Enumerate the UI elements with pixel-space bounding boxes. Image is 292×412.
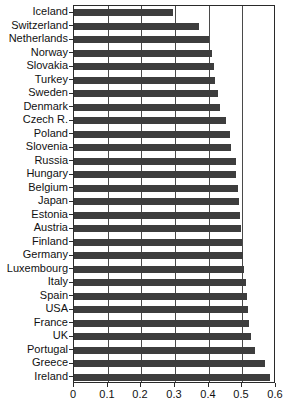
x-tick-mark (208, 383, 209, 387)
x-tick-mark (174, 383, 175, 387)
y-axis-label: Netherlands (0, 32, 68, 45)
y-axis-label: Sweden (0, 86, 68, 99)
y-tick-mark (69, 120, 73, 121)
bar-finland (74, 239, 242, 246)
bar-hungary (74, 171, 236, 178)
x-axis-label: 0.3 (157, 388, 191, 400)
bar-norway (74, 50, 212, 57)
bar-switzerland (74, 23, 199, 30)
y-tick-mark (69, 25, 73, 26)
y-axis-label: Denmark (0, 100, 68, 113)
y-tick-mark (69, 376, 73, 377)
y-axis-label: Spain (0, 289, 68, 302)
bar-iceland (74, 9, 173, 16)
bar-turkey (74, 77, 215, 84)
bar-portugal (74, 347, 255, 354)
y-axis-label: Slovakia (0, 59, 68, 72)
y-tick-mark (69, 133, 73, 134)
y-tick-mark (69, 349, 73, 350)
x-tick-mark (107, 383, 108, 387)
x-axis-label: 0.2 (123, 388, 157, 400)
y-tick-mark (69, 174, 73, 175)
x-axis-label: 0.5 (224, 388, 258, 400)
y-tick-mark (69, 336, 73, 337)
y-tick-mark (69, 160, 73, 161)
bar-italy (74, 279, 246, 286)
y-axis-label: Luxembourg (0, 262, 68, 275)
y-axis-label: Portugal (0, 343, 68, 356)
y-axis-label: Italy (0, 275, 68, 288)
y-axis-label: Iceland (0, 5, 68, 18)
bar-luxembourg (74, 266, 244, 273)
y-axis-label: Poland (0, 127, 68, 140)
y-axis-label: Estonia (0, 208, 68, 221)
y-axis-label: Finland (0, 235, 68, 248)
y-axis-label: Belgium (0, 181, 68, 194)
y-axis-label: Greece (0, 356, 68, 369)
x-axis-label: 0.4 (191, 388, 225, 400)
y-tick-mark (69, 201, 73, 202)
bar-germany (74, 252, 243, 259)
x-axis-label: 0.1 (90, 388, 124, 400)
x-tick-mark (73, 383, 74, 387)
y-tick-mark (69, 52, 73, 53)
bar-uk (74, 333, 251, 340)
y-axis-label: Germany (0, 248, 68, 261)
y-axis-label: Ireland (0, 370, 68, 383)
y-tick-mark (69, 268, 73, 269)
y-tick-mark (69, 79, 73, 80)
bar-ireland (74, 374, 270, 381)
x-tick-mark (241, 383, 242, 387)
x-tick-mark (140, 383, 141, 387)
x-axis-label: 0.6 (258, 388, 292, 400)
y-axis-label: Switzerland (0, 19, 68, 32)
bar-slovakia (74, 63, 214, 70)
y-axis-label: Turkey (0, 73, 68, 86)
y-tick-mark (69, 241, 73, 242)
y-tick-mark (69, 228, 73, 229)
x-tick-mark (275, 383, 276, 387)
y-tick-mark (69, 12, 73, 13)
bar-greece (74, 360, 265, 367)
y-axis-label: Russia (0, 154, 68, 167)
y-tick-mark (69, 282, 73, 283)
y-tick-mark (69, 147, 73, 148)
y-axis-label: Norway (0, 46, 68, 59)
y-axis-label: Czech R. (0, 113, 68, 126)
bar-belgium (74, 185, 238, 192)
horizontal-bar-chart: IcelandSwitzerlandNetherlandsNorwaySlova… (0, 0, 292, 412)
bar-austria (74, 225, 241, 232)
y-axis-label: UK (0, 329, 68, 342)
y-tick-mark (69, 39, 73, 40)
bar-czech-r (74, 117, 226, 124)
y-axis-label: Japan (0, 194, 68, 207)
y-tick-mark (69, 309, 73, 310)
bar-netherlands (74, 36, 209, 43)
y-axis-label: Hungary (0, 167, 68, 180)
bar-estonia (74, 212, 240, 219)
bar-france (74, 320, 249, 327)
y-tick-mark (69, 93, 73, 94)
y-axis-label: Slovenia (0, 140, 68, 153)
bar-japan (74, 198, 239, 205)
bar-poland (74, 131, 230, 138)
y-axis-label: USA (0, 302, 68, 315)
y-tick-mark (69, 322, 73, 323)
bar-slovenia (74, 144, 231, 151)
y-axis-label: Austria (0, 221, 68, 234)
bar-denmark (74, 104, 220, 111)
bar-sweden (74, 90, 218, 97)
y-tick-mark (69, 295, 73, 296)
bar-usa (74, 306, 248, 313)
y-tick-mark (69, 106, 73, 107)
plot-area (73, 5, 275, 383)
y-tick-mark (69, 187, 73, 188)
bar-russia (74, 158, 236, 165)
y-tick-mark (69, 66, 73, 67)
y-axis-label: France (0, 316, 68, 329)
y-tick-mark (69, 214, 73, 215)
y-tick-mark (69, 255, 73, 256)
y-tick-mark (69, 363, 73, 364)
x-axis-label: 0 (56, 388, 90, 400)
bar-spain (74, 293, 247, 300)
